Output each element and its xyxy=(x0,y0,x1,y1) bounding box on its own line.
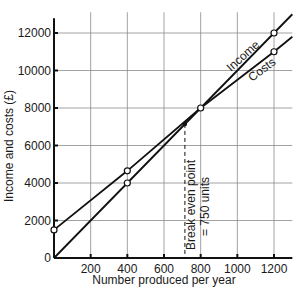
y-tick-labels: 020004000600080001000012000 xyxy=(18,26,52,265)
costs-line-label: Costs xyxy=(245,55,278,85)
costs-marker xyxy=(198,105,204,111)
break-even-chart: 020004000600080001000012000 200400600800… xyxy=(0,0,306,293)
y-tick-label: 8000 xyxy=(24,101,51,115)
y-axis-label: Income and costs (£) xyxy=(2,90,16,202)
y-tick-label: 4000 xyxy=(24,176,51,190)
x-axis-label: Number produced per year xyxy=(92,273,235,287)
costs-marker xyxy=(51,227,57,233)
costs-marker xyxy=(124,168,130,174)
y-tick-label: 10000 xyxy=(18,64,52,78)
income-marker xyxy=(271,30,277,36)
y-tick-label: 2000 xyxy=(24,214,51,228)
y-tick-label: 0 xyxy=(44,251,51,265)
y-tick-label: 6000 xyxy=(24,139,51,153)
costs-marker xyxy=(271,49,277,55)
y-tick-label: 12000 xyxy=(18,26,52,40)
break-even-label: Break even point xyxy=(184,159,198,250)
x-tick-label: 1200 xyxy=(261,262,288,276)
break-even-value: = 750 units xyxy=(198,177,212,236)
income-marker xyxy=(124,180,130,186)
break-even-point xyxy=(183,122,187,126)
